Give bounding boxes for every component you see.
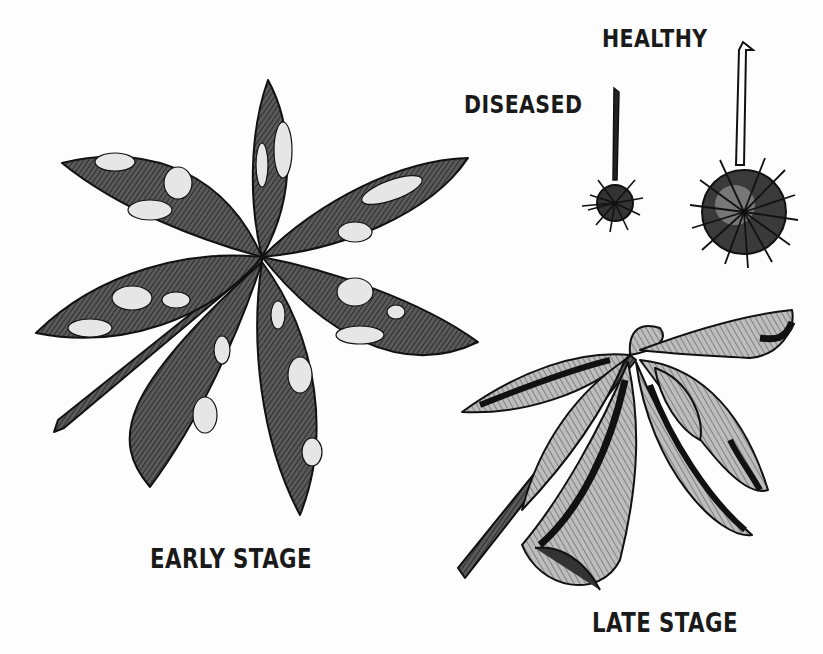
diseased-fruit bbox=[582, 88, 643, 232]
healthy-fruit bbox=[690, 42, 798, 268]
early-stage-label: EARLY STAGE bbox=[150, 544, 312, 574]
healthy-label: HEALTHY bbox=[602, 24, 708, 53]
late-stage-label: LATE STAGE bbox=[592, 608, 738, 638]
early-stage-leaf bbox=[36, 80, 478, 515]
diseased-label: DISEASED bbox=[464, 90, 582, 119]
late-stage-leaf bbox=[458, 310, 793, 590]
illustration-canvas: HEALTHY DISEASED EARLY STAGE LATE STAGE bbox=[0, 0, 823, 654]
illustration-drawings bbox=[0, 0, 823, 654]
